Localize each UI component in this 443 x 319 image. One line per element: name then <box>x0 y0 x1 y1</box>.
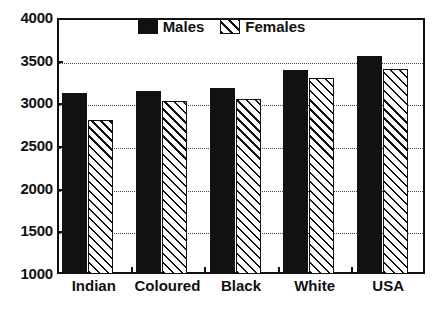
bar-chart: 1000150020002500300035004000 IndianColou… <box>0 0 443 319</box>
x-tick-label: White <box>278 277 352 294</box>
y-tick-label: 1500 <box>1 222 53 239</box>
bar-females <box>309 78 334 274</box>
x-tick-label: USA <box>351 277 425 294</box>
bar-males <box>283 70 308 274</box>
bar-males <box>357 56 382 274</box>
y-tick-label: 2500 <box>1 137 53 154</box>
x-tick-label: Coloured <box>131 277 205 294</box>
bar-males <box>136 91 161 274</box>
bar-males <box>210 88 235 274</box>
bars-layer <box>57 18 425 274</box>
y-tick-label: 4000 <box>1 9 53 26</box>
y-tick-mark <box>57 61 63 63</box>
y-tick-mark <box>57 146 63 148</box>
y-tick-label: 3500 <box>1 52 53 69</box>
bar-females <box>236 99 261 274</box>
y-tick-mark <box>57 103 63 105</box>
bar-females <box>162 101 187 274</box>
x-tick-mark <box>131 267 133 274</box>
y-tick-mark <box>57 189 63 191</box>
y-tick-mark <box>57 231 63 233</box>
y-tick-label: 1000 <box>1 265 53 282</box>
y-tick-label: 3000 <box>1 94 53 111</box>
x-axis-labels: IndianColouredBlackWhiteUSA <box>57 277 425 301</box>
x-tick-mark <box>351 267 353 274</box>
y-axis: 1000150020002500300035004000 <box>0 0 53 319</box>
x-tick-mark <box>278 267 280 274</box>
x-tick-mark <box>204 267 206 274</box>
x-tick-label: Black <box>204 277 278 294</box>
bar-females <box>88 120 113 274</box>
x-tick-label: Indian <box>57 277 131 294</box>
bar-males <box>62 93 87 274</box>
y-tick-label: 2000 <box>1 180 53 197</box>
bar-females <box>383 69 408 274</box>
